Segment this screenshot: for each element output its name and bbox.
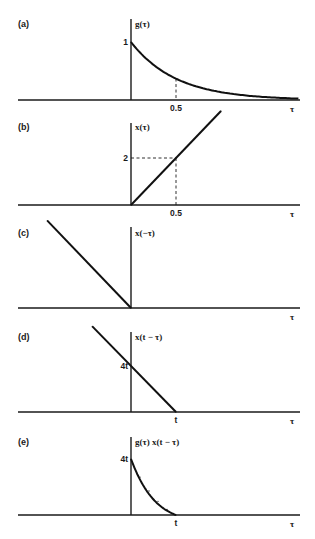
data-point (153, 64, 154, 65)
data-point (175, 514, 176, 515)
panel-a: (a)g(τ)τ0.51 (18, 19, 300, 114)
y-axis-label: x(−τ) (135, 228, 155, 238)
data-point (130, 41, 131, 42)
panel-label: (a) (18, 19, 29, 29)
x-axis-label: τ (290, 519, 295, 529)
x-tick-label: 0.5 (170, 208, 182, 218)
x-tick-label: 0.5 (170, 103, 182, 113)
data-point (130, 204, 131, 205)
data-point (243, 95, 244, 96)
panel-label: (d) (18, 332, 30, 342)
x-axis-label: τ (290, 209, 295, 219)
y-axis-label: x(τ) (135, 122, 150, 132)
series-line (131, 459, 176, 515)
x-axis-label: τ (290, 312, 295, 322)
panel-label: (c) (18, 228, 29, 238)
x-axis-label: τ (290, 416, 295, 426)
panel-c: (c)x(−τ)τ (18, 220, 300, 322)
panel-label: (e) (18, 437, 29, 447)
data-point (288, 98, 289, 99)
data-point (130, 458, 131, 459)
data-point (198, 87, 199, 88)
data-point (166, 509, 167, 510)
y-tick-label: 1 (123, 37, 128, 47)
x-tick-label: t (175, 415, 178, 425)
data-point (220, 110, 221, 111)
panel-label: (b) (18, 122, 30, 132)
data-point (175, 78, 176, 79)
data-point (92, 326, 93, 327)
series-line (131, 42, 298, 99)
data-point (175, 411, 176, 412)
panel-b: (b)x(τ)τ0.52 (18, 110, 300, 219)
data-point (220, 91, 221, 92)
data-point (148, 490, 149, 491)
x-axis-label: τ (290, 104, 295, 114)
panel-e: (e)g(τ) x(t − τ)τt4t (18, 437, 300, 529)
y-axis-label: g(τ) (135, 19, 150, 29)
data-point (157, 501, 158, 502)
y-tick-label: 4t (120, 454, 128, 464)
figure: (a)g(τ)τ0.51(b)x(τ)τ0.52(c)x(−τ)τ(d)x(t … (0, 0, 315, 539)
x-tick-label: t (175, 518, 178, 528)
data-point (47, 220, 48, 221)
y-tick-label: 2 (123, 153, 128, 163)
y-axis-label: g(τ) x(t − τ) (135, 437, 179, 447)
data-point (139, 477, 140, 478)
data-point (130, 307, 131, 308)
series-line (47, 221, 131, 308)
y-axis-label: x(t − τ) (135, 332, 162, 342)
panel-d: (d)x(t − τ)τt4t (18, 326, 300, 426)
data-point (265, 97, 266, 98)
